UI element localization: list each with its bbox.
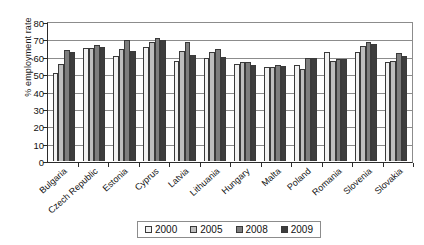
y-tick-mark <box>43 40 47 41</box>
y-tick-mark <box>43 58 47 59</box>
bar-group <box>200 24 230 161</box>
bar-group <box>321 24 351 161</box>
bar-group <box>79 24 109 161</box>
bar <box>160 40 166 161</box>
y-tick-label: 70 <box>4 35 44 46</box>
legend-label: 2008 <box>246 224 268 235</box>
y-tick-label: 50 <box>4 70 44 81</box>
bar <box>281 66 287 161</box>
bar <box>251 65 257 161</box>
x-tick-label: Malta <box>259 166 282 188</box>
y-tick-mark <box>43 145 47 146</box>
legend-item: 2005 <box>190 224 222 235</box>
legend-label: 2009 <box>291 224 313 235</box>
bar <box>221 57 227 161</box>
bar <box>341 59 347 161</box>
y-tick-label: 0 <box>4 157 44 168</box>
x-axis-cell: Slovakia <box>383 164 414 216</box>
bar-groups <box>49 24 411 161</box>
bar <box>371 44 377 161</box>
y-tick-mark <box>43 23 47 24</box>
y-tick-mark <box>43 127 47 128</box>
x-axis-cell: Estonia <box>108 164 139 216</box>
bar-group <box>260 24 290 161</box>
legend-item: 2000 <box>145 224 177 235</box>
legend-swatch <box>145 226 152 233</box>
legend-item: 2008 <box>236 224 268 235</box>
y-tick-label: 30 <box>4 104 44 115</box>
legend-swatch <box>281 226 288 233</box>
bar-group <box>290 24 320 161</box>
x-axis-labels: BulgariaCzech RepublicEstoniaCyprusLatvi… <box>47 164 413 216</box>
y-tick-mark <box>43 93 47 94</box>
x-axis-cell: Cyprus <box>139 164 170 216</box>
employment-rate-bar-chart: % employment rate 01020304050607080 Bulg… <box>0 0 424 245</box>
legend-label: 2000 <box>155 224 177 235</box>
y-tick-label: 40 <box>4 87 44 98</box>
bar-group <box>49 24 79 161</box>
legend-swatch <box>236 226 243 233</box>
x-axis-cell: Malta <box>261 164 292 216</box>
bar-group <box>230 24 260 161</box>
bar-group <box>109 24 139 161</box>
legend-item: 2009 <box>281 224 313 235</box>
x-tick-label: Latvia <box>166 166 191 190</box>
plot-area <box>47 22 413 163</box>
y-tick-label: 20 <box>4 122 44 133</box>
legend-swatch <box>190 226 197 233</box>
bar <box>70 52 76 161</box>
y-tick-label: 60 <box>4 52 44 63</box>
bar <box>130 51 136 161</box>
y-tick-mark <box>43 110 47 111</box>
x-axis-cell: Hungary <box>230 164 261 216</box>
y-tick-label: 10 <box>4 139 44 150</box>
bar <box>100 47 106 161</box>
bar-group <box>170 24 200 161</box>
y-tick-mark <box>43 162 47 163</box>
y-tick-label: 80 <box>4 18 44 29</box>
bar-group <box>381 24 411 161</box>
chart-legend: 2000200520082009 <box>137 221 321 238</box>
x-tick-mark <box>413 163 414 167</box>
bar-group <box>351 24 381 161</box>
bar-group <box>140 24 170 161</box>
legend-label: 2005 <box>200 224 222 235</box>
y-tick-mark <box>43 75 47 76</box>
bar <box>190 55 196 161</box>
bar <box>311 58 317 161</box>
bar <box>402 56 408 161</box>
